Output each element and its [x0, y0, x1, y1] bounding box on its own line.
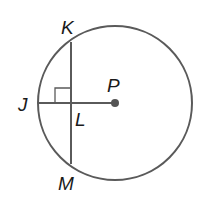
label-p: P [107, 75, 120, 96]
label-l: L [75, 109, 86, 130]
label-j: J [17, 94, 28, 115]
label-k: K [61, 17, 75, 38]
circle-diagram: K J L P M [0, 0, 205, 198]
label-m: M [58, 173, 74, 194]
center-point-p [111, 99, 119, 107]
right-angle-marker [55, 88, 71, 103]
